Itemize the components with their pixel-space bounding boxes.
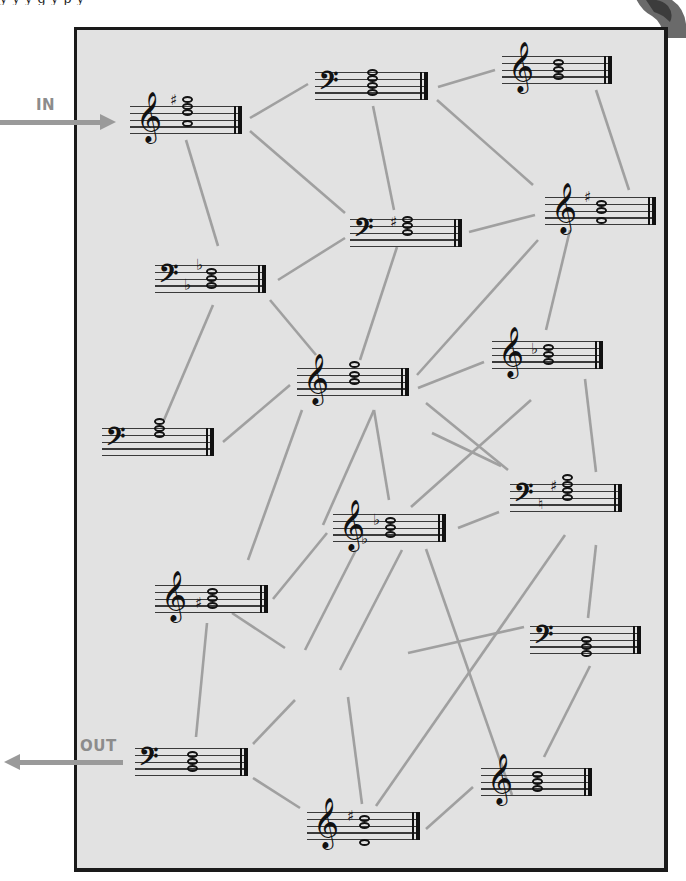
treble-clef-icon: 𝄞 [551, 185, 577, 229]
barline [648, 197, 650, 225]
chord-node-n15[interactable]: 𝄞 [481, 768, 592, 798]
whole-note-icon [154, 418, 165, 425]
chord-node-n2[interactable]: 𝄢 [315, 72, 428, 102]
whole-note-icon [385, 531, 396, 538]
natural-icon: ♮ [538, 497, 543, 512]
final-barline [244, 748, 248, 776]
treble-clef-icon: 𝄞 [498, 329, 524, 373]
chord-node-n12[interactable]: 𝄞♯ [155, 585, 268, 615]
chord-node-n14[interactable]: 𝄢 [135, 748, 248, 778]
bass-clef-icon: 𝄢 [354, 216, 373, 246]
barline [584, 768, 586, 796]
in-arrow-icon [0, 120, 100, 125]
chord-node-n4[interactable]: 𝄢♯ [350, 219, 462, 249]
final-barline [599, 341, 603, 369]
treble-clef-icon: 𝄞 [136, 94, 162, 138]
barline [633, 626, 635, 654]
bass-clef-icon: 𝄢 [139, 745, 158, 775]
sharp-icon: ♯ [170, 93, 177, 108]
chord-node-n7[interactable]: 𝄞 [297, 368, 409, 398]
cropped-caption-text: y y y g y p y [0, 0, 640, 5]
chord-node-n11[interactable]: 𝄞♭♭ [333, 514, 446, 544]
bass-clef-icon: 𝄢 [514, 481, 533, 511]
out-arrow-head-icon [4, 754, 20, 770]
chord-node-n13[interactable]: 𝄢 [530, 626, 641, 656]
final-barline [262, 265, 266, 293]
final-barline [238, 106, 242, 134]
final-barline [588, 768, 592, 796]
flat-icon: ♭ [531, 342, 538, 357]
whole-note-icon [543, 358, 554, 365]
flat-icon: ♭ [373, 513, 380, 528]
barline [401, 368, 403, 396]
final-barline [458, 219, 462, 247]
whole-note-icon [553, 73, 564, 80]
out-arrow-icon [20, 760, 123, 765]
chord-node-n9[interactable]: 𝄢 [102, 428, 214, 458]
whole-note-icon [581, 650, 592, 657]
barline [258, 265, 260, 293]
bass-clef-icon: 𝄢 [106, 425, 125, 455]
barline [604, 56, 606, 84]
bass-clef-icon: 𝄢 [319, 69, 338, 99]
chord-node-n10[interactable]: 𝄢♮♯ [510, 484, 622, 514]
barline [438, 514, 440, 542]
whole-note-icon [367, 89, 378, 96]
flat-icon: ♭ [361, 532, 368, 547]
chord-node-n5[interactable]: 𝄞♯ [545, 197, 656, 227]
whole-note-icon [182, 120, 193, 127]
chord-node-n3[interactable]: 𝄞 [502, 56, 612, 86]
bass-clef-icon: 𝄢 [534, 623, 553, 653]
final-barline [405, 368, 409, 396]
barline [614, 484, 616, 512]
final-barline [416, 812, 420, 840]
final-barline [264, 585, 268, 613]
chord-node-n1[interactable]: 𝄞♯ [130, 106, 242, 136]
final-barline [210, 428, 214, 456]
whole-note-icon [207, 602, 218, 609]
flat-icon: ♭ [196, 258, 203, 273]
flat-icon: ♭ [184, 278, 191, 293]
treble-clef-icon: 𝄞 [487, 756, 513, 800]
barline [454, 219, 456, 247]
sharp-icon: ♯ [584, 190, 591, 205]
final-barline [424, 72, 428, 100]
barline [206, 428, 208, 456]
barline [234, 106, 236, 134]
barline [595, 341, 597, 369]
treble-clef-icon: 𝄞 [508, 44, 534, 88]
final-barline [442, 514, 446, 542]
whole-note-icon [562, 474, 573, 481]
final-barline [637, 626, 641, 654]
in-arrow-head-icon [100, 114, 116, 130]
whole-note-icon [182, 96, 193, 103]
sharp-icon: ♯ [195, 596, 202, 611]
final-barline [652, 197, 656, 225]
barline [420, 72, 422, 100]
whole-note-icon [581, 643, 592, 650]
treble-clef-icon: 𝄞 [303, 356, 329, 400]
barline [412, 812, 414, 840]
barline [240, 748, 242, 776]
barline [260, 585, 262, 613]
in-label: IN [36, 96, 55, 114]
treble-clef-icon: 𝄞 [313, 800, 339, 844]
whole-note-icon [206, 282, 217, 289]
chord-node-n8[interactable]: 𝄞♭ [492, 341, 603, 371]
treble-clef-icon: 𝄞 [161, 573, 187, 617]
whole-note-icon [187, 765, 198, 772]
out-label: OUT [80, 737, 117, 755]
final-barline [608, 56, 612, 84]
sharp-icon: ♯ [347, 809, 354, 824]
whole-note-icon [532, 785, 543, 792]
sharp-icon: ♯ [390, 215, 397, 230]
final-barline [618, 484, 622, 512]
chord-node-n6[interactable]: 𝄢♭♭ [155, 265, 266, 295]
chord-node-n16[interactable]: 𝄞♯ [307, 812, 420, 842]
sharp-icon: ♯ [550, 479, 557, 494]
bass-clef-icon: 𝄢 [159, 262, 178, 292]
